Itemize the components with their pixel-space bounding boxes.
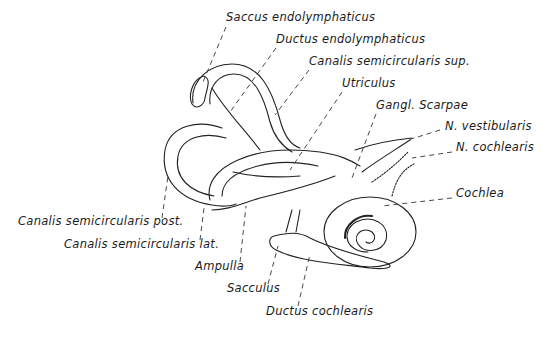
label-ductus-cochlearis: Ductus cochlearis: [266, 304, 373, 318]
label-gangl-scarpae: Gangl. Scarpae: [376, 98, 468, 112]
label-canalis-semicircularis-lat: Canalis semicircularis lat.: [64, 237, 219, 251]
label-ductus-endolymphaticus: Ductus endolymphaticus: [276, 32, 425, 46]
label-canalis-semicircularis-sup: Canalis semicircularis sup.: [309, 54, 470, 68]
label-utriculus: Utriculus: [342, 76, 396, 90]
label-n-cochlearis: N. cochlearis: [456, 140, 534, 154]
label-saccus-endolymphaticus: Saccus endolymphaticus: [226, 10, 375, 24]
label-cochlea: Cochlea: [456, 186, 504, 200]
label-ampulla: Ampulla: [195, 259, 244, 273]
label-canalis-semicircularis-post: Canalis semicircularis post.: [18, 214, 183, 228]
label-sacculus: Sacculus: [227, 281, 280, 295]
label-n-vestibularis: N. vestibularis: [445, 119, 532, 133]
